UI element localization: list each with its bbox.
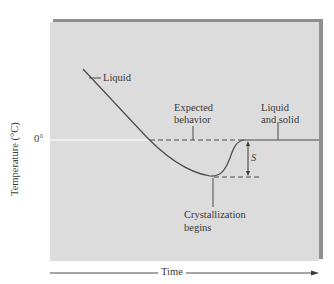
cooling-curve-plot bbox=[0, 0, 334, 284]
liquid-label: Liquid bbox=[103, 72, 131, 84]
time-axis-arrowhead bbox=[311, 271, 319, 276]
expected-behavior-label-line1: Expected bbox=[174, 102, 213, 114]
y-axis-label: Temperature (°C) bbox=[9, 122, 20, 196]
x-axis-label: Time bbox=[158, 266, 186, 277]
liquid-solid-label-line2: and solid bbox=[261, 114, 299, 126]
crystallization-label-line2: begins bbox=[184, 222, 211, 234]
liquid-solid-label-line1: Liquid bbox=[261, 102, 289, 114]
y-axis-zero-tick: 0° bbox=[34, 133, 43, 144]
expected-behavior-label-line2: behavior bbox=[174, 114, 211, 126]
supercooling-s-label: S bbox=[251, 152, 256, 164]
supercooling-arrow bbox=[246, 141, 250, 176]
crystallization-label-line1: Crystallization bbox=[184, 209, 246, 221]
cooling-curve bbox=[83, 69, 244, 176]
